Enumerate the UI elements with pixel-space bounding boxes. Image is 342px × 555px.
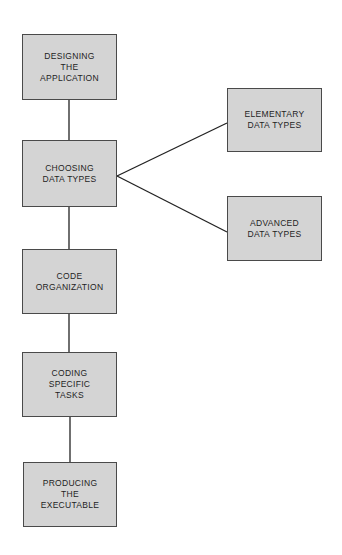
node-advanced-data-types: ADVANCED DATA TYPES (227, 196, 322, 261)
node-label: CODING SPECIFIC TASKS (49, 368, 91, 401)
node-designing-the-application: DESIGNING THE APPLICATION (22, 34, 117, 100)
node-elementary-data-types: ELEMENTARY DATA TYPES (227, 88, 322, 152)
node-label: ADVANCED DATA TYPES (247, 218, 301, 240)
node-code-organization: CODE ORGANIZATION (22, 249, 117, 314)
node-choosing-data-types: CHOOSING DATA TYPES (22, 140, 117, 207)
node-producing-the-executable: PRODUCING THE EXECUTABLE (23, 462, 117, 527)
node-coding-specific-tasks: CODING SPECIFIC TASKS (22, 352, 117, 417)
node-label: PRODUCING THE EXECUTABLE (41, 478, 100, 511)
flowchart-canvas: DESIGNING THE APPLICATION CHOOSING DATA … (0, 0, 342, 555)
edge-choosing-advanced (117, 176, 227, 232)
node-label: DESIGNING THE APPLICATION (40, 51, 99, 84)
edge-choosing-elementary (117, 123, 227, 176)
node-label: CHOOSING DATA TYPES (42, 163, 96, 185)
node-label: ELEMENTARY DATA TYPES (245, 109, 305, 131)
node-label: CODE ORGANIZATION (36, 271, 104, 293)
